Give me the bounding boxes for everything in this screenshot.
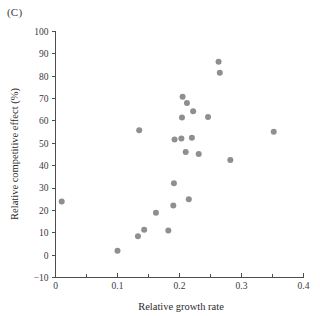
data-point <box>171 180 177 186</box>
y-tick-label: 0 <box>44 251 49 261</box>
data-point <box>217 70 223 76</box>
data-point <box>196 151 202 157</box>
y-tick-label: 90 <box>39 49 49 59</box>
data-points <box>59 59 277 254</box>
y-tick-label: 100 <box>34 27 49 37</box>
data-point <box>186 196 192 202</box>
x-tick-label: 0.3 <box>236 281 248 291</box>
data-point <box>183 149 189 155</box>
data-point <box>227 157 233 163</box>
data-point <box>153 210 159 216</box>
y-tick-label: 10 <box>39 228 49 238</box>
data-point <box>205 114 211 120</box>
data-point <box>190 108 196 114</box>
data-point <box>59 198 65 204</box>
y-tick-label: 30 <box>39 183 49 193</box>
axes <box>56 32 304 278</box>
x-tick-label: 0.1 <box>112 281 124 291</box>
data-point <box>135 233 141 239</box>
data-point <box>115 248 121 254</box>
y-tick-label: 20 <box>39 206 49 216</box>
data-point <box>165 228 171 234</box>
y-tick-label: 70 <box>39 94 49 104</box>
data-point <box>170 202 176 208</box>
data-point <box>189 135 195 141</box>
y-axis-title: Relative competitive effect (%) <box>9 88 21 220</box>
y-tick-label: 50 <box>39 139 49 149</box>
y-tick-label: −10 <box>34 273 49 283</box>
data-point <box>136 127 142 133</box>
y-tick-label: 40 <box>39 161 49 171</box>
scatter-plot: −100102030405060708090100 00.10.20.30.4 … <box>0 0 320 316</box>
data-point <box>216 59 222 65</box>
x-tick-label: 0.2 <box>174 281 186 291</box>
x-tick-label: 0.4 <box>298 281 310 291</box>
data-point <box>184 100 190 106</box>
y-axis-ticks: −100102030405060708090100 <box>34 27 56 283</box>
data-point <box>141 227 147 233</box>
x-axis-ticks: 00.10.20.30.4 <box>53 273 310 291</box>
data-point <box>179 115 185 121</box>
x-axis-title: Relative growth rate <box>138 301 224 312</box>
y-tick-label: 80 <box>39 72 49 82</box>
y-tick-label: 60 <box>39 116 49 126</box>
data-point <box>180 94 186 100</box>
data-point <box>271 129 277 135</box>
x-tick-label: 0 <box>53 281 58 291</box>
data-point <box>178 135 184 141</box>
axis-frame <box>56 32 304 278</box>
data-point <box>172 137 178 143</box>
figure-panel-c: (C) −100102030405060708090100 00.10.20.3… <box>0 0 320 316</box>
